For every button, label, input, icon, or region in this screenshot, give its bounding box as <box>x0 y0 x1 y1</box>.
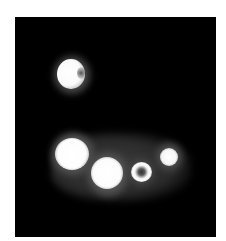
micrograph-frame <box>15 17 216 237</box>
cell-right-small <box>160 148 178 166</box>
cell-notch <box>77 67 85 79</box>
cell-left-large <box>55 138 89 170</box>
cell-center-large <box>91 157 123 189</box>
cell-ring <box>131 162 152 182</box>
